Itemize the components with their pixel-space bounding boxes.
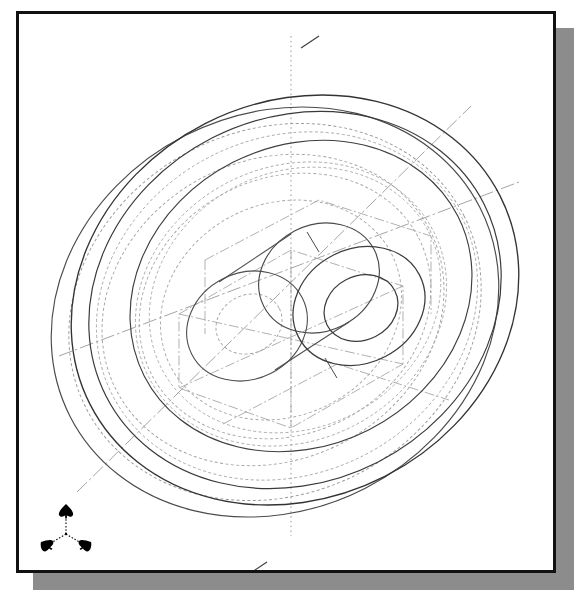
wireframe-model (19, 14, 553, 570)
y-axis-stem (66, 534, 81, 543)
y-axis-arrowhead (79, 540, 92, 551)
rim-tangent-lines (249, 36, 319, 570)
rim-back-profile (19, 31, 553, 570)
axis-tripod-icon[interactable] (37, 498, 95, 556)
wheel-web-hidden (93, 118, 487, 488)
hub-silhouette-lower (275, 322, 349, 370)
hub-bore-front (313, 262, 410, 354)
center-lines (59, 36, 519, 536)
hub-silhouette-upper (219, 234, 291, 282)
x-axis-arrowhead (41, 540, 54, 551)
axis-origin-point (65, 533, 67, 535)
hub-mid-face (240, 203, 399, 354)
iso-construction-line-a (77, 106, 471, 492)
rim-tangent-top (301, 36, 319, 48)
hub-boss-front (273, 224, 446, 387)
rim-hidden-arcs (36, 67, 538, 544)
screenshot-root (0, 0, 580, 602)
drawing-sheet (16, 11, 556, 573)
rim-front-profile (19, 19, 553, 570)
outer-rim-front-face (19, 19, 553, 570)
x-axis-stem (51, 534, 66, 543)
rim-inner-back (48, 96, 498, 523)
model-viewport[interactable] (19, 14, 553, 570)
outer-rim-back-face (19, 31, 553, 570)
z-axis-arrowhead (59, 504, 73, 519)
axis-stems (51, 515, 81, 543)
hub-boss-flange (219, 203, 398, 370)
hub-front-face (273, 224, 446, 387)
boss-wall-lower (325, 358, 337, 378)
web-disc-outer (93, 124, 477, 488)
boss-wall-upper (307, 232, 319, 252)
rim-tangent-bottom (249, 562, 267, 570)
rim-groove-front (23, 42, 553, 559)
